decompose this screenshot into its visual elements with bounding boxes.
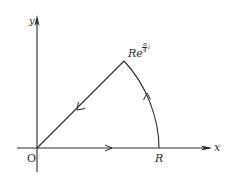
x-axis-label: x: [214, 142, 220, 153]
y-axis-label: y: [29, 16, 35, 26]
apex-label: Re: [128, 48, 143, 59]
apex-exponent-bar: [142, 47, 147, 48]
r-label: R: [155, 153, 163, 164]
apex-exponent-denominator: 4: [143, 47, 147, 53]
origin-label: O: [27, 153, 36, 164]
arc-segment: [124, 61, 159, 148]
ray-segment: [37, 61, 124, 148]
direction-arrow-downleft-icon: [77, 102, 85, 110]
apex-exponent-i: i: [148, 44, 150, 50]
